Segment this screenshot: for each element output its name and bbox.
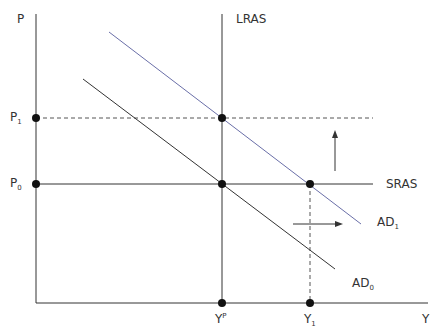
ad0-curve [83, 79, 335, 269]
point-p0-lras [218, 180, 226, 188]
y-axis-label: P [17, 12, 24, 26]
lras-label: LRAS [236, 12, 266, 26]
point-p1-lras [218, 114, 226, 122]
point-p1-axis [32, 114, 40, 122]
sras-label: SRAS [386, 177, 417, 191]
point-yp-axis [218, 299, 226, 307]
ad-as-diagram [0, 0, 444, 335]
arrow-right-icon [293, 221, 343, 227]
point-y1-axis [306, 299, 314, 307]
p1-tick-label: P1 [10, 110, 22, 126]
ad0-label: AD0 [352, 276, 374, 292]
ad1-curve [109, 32, 361, 224]
y1-tick-label: Y1 [304, 312, 316, 328]
x-axis-label: Y [422, 312, 429, 326]
p0-tick-label: P0 [10, 176, 22, 192]
point-p0-y1 [306, 180, 314, 188]
yp-tick-label: YP [215, 312, 227, 326]
ad1-label: AD1 [377, 215, 399, 231]
point-p0-axis [32, 180, 40, 188]
arrow-up-icon [332, 130, 338, 171]
